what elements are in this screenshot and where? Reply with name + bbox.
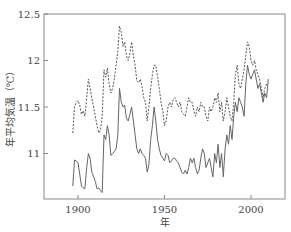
y-axis-label: 年平均気温（℃） [4,66,16,147]
series-layer [73,26,268,193]
dashed-series-line [73,26,268,133]
x-axis-label: 年 [160,216,170,228]
x-tick-label: 2000 [238,204,263,215]
x-axis-ticks: 190019502000 [65,195,263,215]
y-axis-ticks: 1111.51212.5 [18,9,48,160]
x-tick-label: 1950 [152,204,177,215]
y-tick-label: 11 [27,148,40,159]
line-chart: 1111.51212.5 190019502000 年 年平均気温（℃） [0,0,291,232]
y-tick-label: 12 [27,55,40,66]
y-tick-label: 12.5 [18,9,40,20]
y-tick-label: 11.5 [18,102,40,113]
x-tick-label: 1900 [65,204,90,215]
